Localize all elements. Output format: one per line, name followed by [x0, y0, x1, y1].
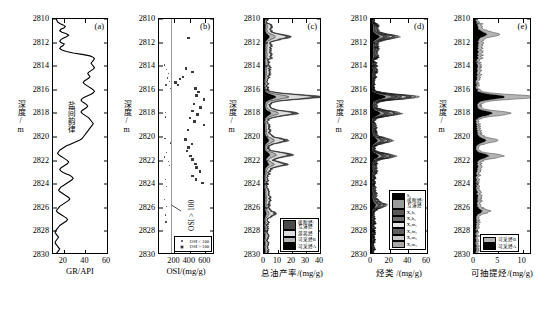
y-tick-label: 2826 — [33, 202, 52, 211]
x-tick-mark — [390, 19, 391, 23]
y-tick-mark — [317, 160, 321, 161]
y-tick-mark — [104, 207, 108, 208]
panel-a: 盐间韵律 (a) 深度/m GR/API 2810281228142816281… — [52, 18, 108, 254]
panel-a-x-axis-label: GR/API — [66, 266, 94, 276]
figure-root: 盐间韵律 (a) 深度/m GR/API 2810281228142816281… — [0, 0, 538, 311]
y-tick-mark — [53, 207, 57, 208]
y-tick-mark — [159, 89, 163, 90]
y-tick-mark — [474, 137, 478, 138]
x-tick-label: 40 — [315, 254, 323, 265]
x-tick-mark — [85, 250, 86, 254]
panel-e-plot: 可采烃B 可采烃A — [473, 18, 531, 254]
x-tick-mark — [85, 19, 86, 23]
y-tick-label: 2816 — [351, 84, 370, 93]
y-tick-label: 2824 — [351, 179, 370, 188]
y-tick-mark — [159, 19, 163, 20]
y-tick-mark — [210, 137, 214, 138]
legend-label: OSI > 100 — [190, 244, 209, 249]
y-tick-label: 2818 — [139, 108, 158, 117]
y-tick-mark — [264, 89, 268, 90]
y-tick-label: 2820 — [454, 132, 473, 141]
y-tick-mark — [159, 66, 163, 67]
y-tick-mark — [210, 113, 214, 114]
y-tick-label: 2824 — [139, 179, 158, 188]
y-tick-label: 2822 — [454, 155, 473, 164]
y-tick-label: 2824 — [244, 179, 263, 188]
y-tick-mark — [424, 89, 428, 90]
y-tick-label: 2816 — [139, 84, 158, 93]
x-tick-mark — [390, 250, 391, 254]
x-tick-mark — [498, 19, 499, 23]
y-tick-label: 2816 — [33, 84, 52, 93]
y-tick-label: 2820 — [244, 132, 263, 141]
y-tick-label: 2820 — [139, 132, 158, 141]
legend-label: 游离烃 — [298, 231, 313, 236]
y-tick-label: 2822 — [33, 155, 52, 164]
y-tick-mark — [264, 184, 268, 185]
y-tick-label: 2814 — [244, 61, 263, 70]
legend-label: X₁m₁ — [407, 222, 417, 227]
x-tick-label: 400 — [183, 254, 195, 265]
panel-e-legend: 可采烃B 可采烃A — [480, 234, 519, 252]
y-tick-mark — [53, 113, 57, 114]
y-tick-label: 2810 — [454, 14, 473, 23]
y-tick-label: 2824 — [33, 179, 52, 188]
x-tick-label: 0 — [368, 254, 372, 265]
y-tick-mark — [527, 231, 531, 232]
y-tick-mark — [53, 184, 57, 185]
y-tick-mark — [264, 137, 268, 138]
y-tick-mark — [371, 160, 375, 161]
y-tick-mark — [210, 160, 214, 161]
panel-a-annotation: 盐间韵律 — [67, 101, 75, 133]
y-tick-label: 2810 — [139, 14, 158, 23]
x-tick-label: 200 — [167, 254, 179, 265]
y-tick-mark — [371, 137, 375, 138]
y-tick-mark — [104, 42, 108, 43]
legend-item: 吸附烃/ 互溶烃 — [392, 199, 423, 209]
y-tick-label: 2812 — [454, 37, 473, 46]
x-tick-label: 5 — [495, 254, 499, 265]
panel-c-x-axis-label: 总油产率/(mg/g) — [261, 266, 323, 278]
y-tick-mark — [264, 113, 268, 114]
x-tick-label: 0 — [471, 254, 475, 265]
y-tick-mark — [210, 207, 214, 208]
legend-label-line2: 互溶烃 — [298, 225, 314, 230]
panel-e-tag: (e) — [518, 21, 527, 31]
x-tick-mark — [64, 250, 65, 254]
legend-item: 可采烃A — [283, 243, 316, 249]
y-tick-label: 2820 — [33, 132, 52, 141]
y-tick-mark — [159, 42, 163, 43]
legend-label: X₁h₁ — [407, 210, 416, 215]
y-tick-label: 2814 — [139, 61, 158, 70]
y-tick-label: 2830 — [139, 250, 158, 259]
y-tick-mark — [104, 113, 108, 114]
y-tick-label: 2830 — [33, 250, 52, 259]
x-tick-mark — [474, 250, 475, 254]
y-tick-label: 2812 — [351, 37, 370, 46]
panel-b-plot: OSI > 100 OSI < 100 OSI > 100 — [158, 18, 214, 254]
y-tick-label: 2826 — [244, 202, 263, 211]
panel-d-tag: (d) — [414, 21, 424, 31]
y-tick-label: 2822 — [244, 155, 263, 164]
y-tick-mark — [210, 231, 214, 232]
x-tick-label: 30 — [301, 254, 309, 265]
y-tick-label: 2814 — [351, 61, 370, 70]
small-dot-icon — [177, 239, 188, 243]
panel-d-y-axis-label: 深度/m — [334, 100, 342, 134]
y-tick-mark — [104, 66, 108, 67]
x-tick-mark — [371, 250, 372, 254]
legend-label: 可采烃A — [498, 244, 516, 249]
y-tick-mark — [210, 42, 214, 43]
y-tick-mark — [159, 160, 163, 161]
y-tick-mark — [474, 207, 478, 208]
y-tick-mark — [264, 160, 268, 161]
y-tick-mark — [264, 231, 268, 232]
y-tick-mark — [104, 184, 108, 185]
legend-swatch — [283, 243, 296, 249]
y-tick-mark — [371, 184, 375, 185]
x-tick-mark — [523, 250, 524, 254]
x-tick-label: 60 — [102, 254, 110, 265]
panel-d: S₀ 吸附烃/ 互溶烃 X₁h₁ X₁h₂ — [370, 18, 428, 254]
y-tick-label: 2814 — [33, 61, 52, 70]
x-tick-mark — [64, 19, 65, 23]
